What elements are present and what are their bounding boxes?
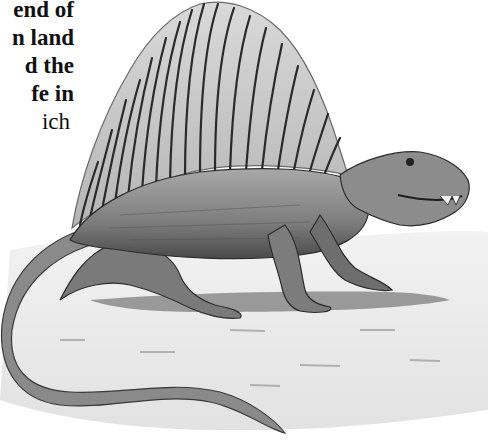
dimetrodon-illustration — [0, 0, 488, 443]
eye — [406, 158, 414, 166]
